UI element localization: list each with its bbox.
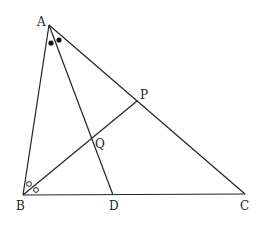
- segment-AD: [49, 25, 113, 195]
- label-B: B: [16, 199, 25, 213]
- label-P: P: [140, 88, 148, 102]
- angle-mark-ring-icon: [27, 182, 32, 187]
- label-C: C: [240, 199, 249, 213]
- angle-mark-dot-icon: [56, 37, 61, 42]
- triangle-figure: A B D C P Q: [0, 0, 267, 231]
- segment-BP: [23, 101, 137, 195]
- geometry-diagram: A B D C P Q: [0, 0, 267, 231]
- angle-mark-dot-icon: [48, 40, 53, 45]
- segment-CA: [49, 25, 245, 194]
- segment-BC: [23, 194, 245, 195]
- segment-AB: [23, 25, 49, 195]
- angle-mark-ring-icon: [34, 188, 39, 193]
- label-D: D: [109, 199, 119, 213]
- label-Q: Q: [95, 137, 105, 151]
- label-A: A: [36, 15, 46, 29]
